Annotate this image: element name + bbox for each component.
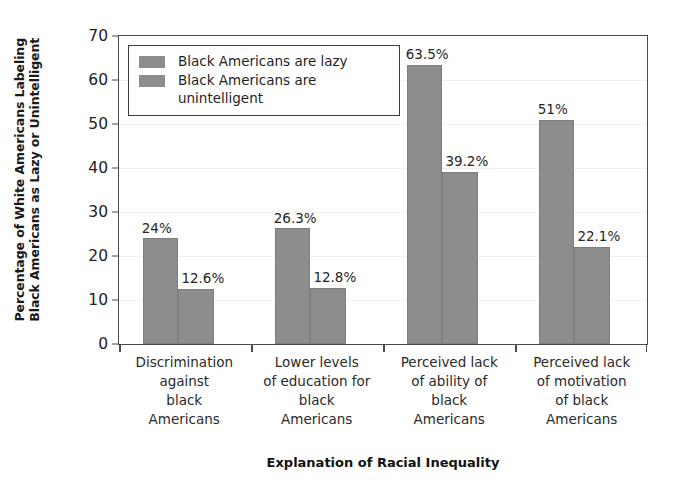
bar-value-label: 51% xyxy=(538,103,568,121)
legend-swatch-icon xyxy=(139,75,165,87)
y-tick-mark xyxy=(112,123,119,125)
plot-area: 70 60 50 40 30 20 10 0 24% xyxy=(118,35,648,345)
bar-value-label: 12.8% xyxy=(313,271,356,289)
x-cat-2-line-2: black xyxy=(383,391,516,410)
bar-series-0-cat-1[interactable]: 26.3% xyxy=(275,228,311,344)
y-tick-70: 70 xyxy=(88,36,119,37)
x-cat-2-line-1: of ability of xyxy=(383,372,516,391)
y-tick-label-70: 70 xyxy=(88,28,108,44)
y-tick-40: 40 xyxy=(88,168,119,169)
y-tick-20: 20 xyxy=(88,256,119,257)
y-tick-label-60: 60 xyxy=(88,72,108,88)
x-tick-0 xyxy=(119,344,121,352)
y-tick-60: 60 xyxy=(88,79,119,80)
bar-group-3: 51% 22.1% xyxy=(515,36,647,344)
x-cat-1-line-1: of education for xyxy=(251,372,384,391)
legend-swatch-icon xyxy=(139,56,165,68)
bar-series-1-cat-0[interactable]: 12.6% xyxy=(178,289,214,344)
x-tick-1 xyxy=(251,344,253,352)
y-tick-10: 10 xyxy=(88,299,119,300)
y-tick-label-10: 10 xyxy=(88,292,108,308)
x-cat-3-line-0: Perceived lack xyxy=(516,353,649,372)
y-tick-mark xyxy=(112,255,119,257)
legend-item-1[interactable]: Black Americans are unintelligent xyxy=(139,72,388,108)
bar-value-label: 63.5% xyxy=(406,48,449,66)
y-tick-50: 50 xyxy=(88,123,119,124)
y-axis-title-line-1: Percentage of White Americans Labeling xyxy=(13,38,28,322)
y-tick-0: 0 xyxy=(98,344,119,345)
x-cat-1-line-0: Lower levels xyxy=(251,353,384,372)
bar-series-0-cat-0[interactable]: 24% xyxy=(143,238,179,344)
x-cat-2-line-3: Americans xyxy=(383,410,516,429)
bar-value-label: 22.1% xyxy=(577,230,620,248)
y-tick-label-30: 30 xyxy=(88,204,108,220)
x-cat-3-line-1: of motivation xyxy=(516,372,649,391)
x-cat-0-line-2: black xyxy=(118,391,251,410)
y-axis-title: Percentage of White Americans Labeling B… xyxy=(0,0,56,360)
x-cat-0-line-3: Americans xyxy=(118,410,251,429)
y-tick-mark xyxy=(112,343,119,345)
x-category-label-3: Perceived lack of motivation of black Am… xyxy=(516,353,649,449)
x-tick-4 xyxy=(646,344,648,352)
y-tick-label-20: 20 xyxy=(88,248,108,264)
x-tick-2 xyxy=(383,344,385,352)
bar-series-0-cat-2[interactable]: 63.5% xyxy=(407,65,443,344)
bar-value-label: 12.6% xyxy=(181,272,224,290)
bar-value-label: 24% xyxy=(142,222,172,240)
y-tick-mark xyxy=(112,299,119,301)
bar-group-2: 63.5% 39.2% xyxy=(383,36,515,344)
legend-label-1-line-2: unintelligent xyxy=(178,90,316,108)
x-cat-0-line-1: against xyxy=(118,372,251,391)
bar-value-label: 26.3% xyxy=(274,212,317,230)
y-axis-title-line-2: Black Americans as Lazy or Unintelligent xyxy=(28,38,43,322)
bar-chart-figure: Percentage of White Americans Labeling B… xyxy=(0,0,687,491)
bar-series-1-cat-1[interactable]: 12.8% xyxy=(310,288,346,344)
x-cat-1-line-2: black xyxy=(251,391,384,410)
y-tick-label-40: 40 xyxy=(88,160,108,176)
y-tick-label-50: 50 xyxy=(88,116,108,132)
y-tick-30: 30 xyxy=(88,211,119,212)
x-category-label-0: Discrimination against black Americans xyxy=(118,353,251,449)
legend: Black Americans are lazy Black Americans… xyxy=(128,45,400,116)
x-axis-title: Explanation of Racial Inequality xyxy=(118,455,648,470)
legend-label-0: Black Americans are lazy xyxy=(178,53,348,69)
bar-series-0-cat-3[interactable]: 51% xyxy=(539,120,575,344)
bar-series-1-cat-2[interactable]: 39.2% xyxy=(442,172,478,344)
bar-value-label: 39.2% xyxy=(445,155,488,173)
x-axis-category-labels: Discrimination against black Americans L… xyxy=(118,353,648,449)
y-tick-mark xyxy=(112,35,119,37)
x-cat-3-line-2: of black xyxy=(516,391,649,410)
y-tick-mark xyxy=(112,211,119,213)
x-tick-3 xyxy=(515,344,517,352)
y-tick-mark xyxy=(112,167,119,169)
legend-item-0[interactable]: Black Americans are lazy xyxy=(139,53,388,71)
x-cat-1-line-3: Americans xyxy=(251,410,384,429)
x-cat-0-line-0: Discrimination xyxy=(118,353,251,372)
x-cat-3-line-3: Americans xyxy=(516,410,649,429)
y-tick-mark xyxy=(112,79,119,81)
bar-series-1-cat-3[interactable]: 22.1% xyxy=(574,247,610,344)
legend-label-1-line-1: Black Americans are xyxy=(178,72,316,90)
x-category-label-2: Perceived lack of ability of black Ameri… xyxy=(383,353,516,449)
x-category-label-1: Lower levels of education for black Amer… xyxy=(251,353,384,449)
y-tick-label-0: 0 xyxy=(98,336,108,352)
x-cat-2-line-0: Perceived lack xyxy=(383,353,516,372)
